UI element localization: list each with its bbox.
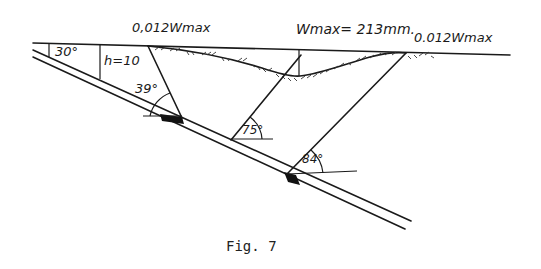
label-depth: h=10 <box>104 53 140 68</box>
label-wmax: Wmax= 213mm. <box>296 21 415 37</box>
subsidence-trough-curve <box>148 46 406 76</box>
label-seam-dip: 30° <box>55 44 78 59</box>
horizontal-ref-right <box>287 171 357 174</box>
label-left-limit: 0,012Wmax <box>132 20 211 35</box>
seam-floor-line <box>33 57 405 229</box>
figure-caption: Fig. 7 <box>226 238 277 254</box>
seam-roof-line <box>33 50 411 221</box>
subsidence-diagram: 0,012Wmax Wmax= 213mm. 0.012Wmax 30° h=1… <box>0 0 541 269</box>
label-right-limit: 0.012Wmax <box>414 30 493 45</box>
label-angle-right: 84° <box>302 152 323 166</box>
label-angle-left: 39° <box>135 81 158 96</box>
label-angle-center: 75° <box>242 123 263 137</box>
